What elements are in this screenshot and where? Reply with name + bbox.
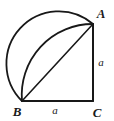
segment-BA bbox=[22, 24, 93, 101]
figure-canvas: A B C a a bbox=[0, 0, 114, 121]
geometry-figure: A B C a a bbox=[0, 0, 114, 121]
side-label-vertical-leg: a bbox=[98, 56, 104, 68]
vertex-label-C: C bbox=[93, 105, 102, 120]
vertex-label-B: B bbox=[12, 104, 22, 119]
vertex-label-A: A bbox=[96, 6, 106, 21]
side-label-horizontal-leg: a bbox=[52, 104, 58, 116]
